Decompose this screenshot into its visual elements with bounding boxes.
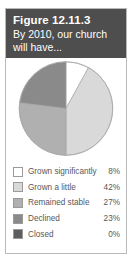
pie-chart <box>18 60 115 157</box>
legend-swatch-icon <box>13 182 23 192</box>
legend-item-value: 8% <box>108 167 120 176</box>
legend-swatch-icon <box>13 167 23 177</box>
pie-slice-group <box>19 62 113 156</box>
legend-item-label: Remained stable <box>28 198 104 207</box>
pie-slice <box>19 103 66 156</box>
pie-slice <box>20 62 66 109</box>
legend: Grown significantly 8% Grown a little 42… <box>6 162 126 242</box>
legend-row: Remained stable 27% <box>13 195 120 211</box>
figure-header: Figure 12.11.3 By 2010, our church will … <box>6 9 126 58</box>
legend-swatch-icon <box>13 198 23 208</box>
legend-item-label: Grown a little <box>28 183 104 192</box>
legend-swatch-icon <box>13 229 23 239</box>
chart-area <box>6 58 126 162</box>
legend-item-value: 0% <box>108 230 120 239</box>
legend-item-label: Closed <box>28 230 108 239</box>
legend-item-label: Grown significantly <box>28 167 108 176</box>
legend-row: Closed 0% <box>13 226 120 242</box>
figure-title: Figure 12.11.3 <box>13 13 120 27</box>
figure-subtitle: By 2010, our church will have... <box>13 28 120 53</box>
legend-item-label: Declined <box>28 214 104 223</box>
legend-item-value: 27% <box>104 198 120 207</box>
figure-card: Figure 12.11.3 By 2010, our church will … <box>5 8 127 254</box>
legend-row: Grown significantly 8% <box>13 164 120 180</box>
legend-row: Declined 23% <box>13 211 120 227</box>
legend-item-value: 42% <box>104 183 120 192</box>
legend-item-value: 23% <box>104 214 120 223</box>
legend-row: Grown a little 42% <box>13 180 120 196</box>
legend-swatch-icon <box>13 214 23 224</box>
